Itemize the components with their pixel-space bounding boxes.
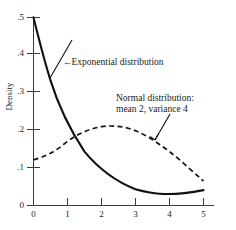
x-tick-label-2: 2 [94,210,109,219]
normal-annotation-line2: mean 2, variance 4 [116,104,194,115]
normal-annotation-line1: Normal distribution: [116,93,194,104]
y-tick-label-0.1: .1 [6,163,24,172]
x-tick-label-0: 0 [26,210,41,219]
x-tick-label-1: 1 [60,210,75,219]
chart-plot-area [0,0,236,230]
x-axis-ticks [68,198,204,206]
y-axis-ticks [27,18,34,206]
exponential-annotation-text: Exponential distribution [72,57,164,67]
exponential-annotation: ←Exponential distribution [63,57,164,68]
x-tick-label-4: 4 [162,210,177,219]
left-arrow-icon: ← [63,57,72,67]
normal-distribution-curve [34,126,204,181]
y-tick-label-0.2: .2 [6,125,24,134]
density-comparison-figure: .5 .4 .3 .2 .1 0 0 1 2 3 4 5 Density ←Ex… [0,0,236,230]
x-tick-label-5: 5 [196,210,211,219]
normal-annotation: Normal distribution: mean 2, variance 4 [116,93,194,115]
y-tick-label-0: 0 [6,201,24,210]
y-axis-title: Density [5,74,14,120]
x-tick-label-3: 3 [128,210,143,219]
y-tick-label-0.4: .4 [6,49,24,58]
y-tick-label-0.5: .5 [6,13,24,22]
